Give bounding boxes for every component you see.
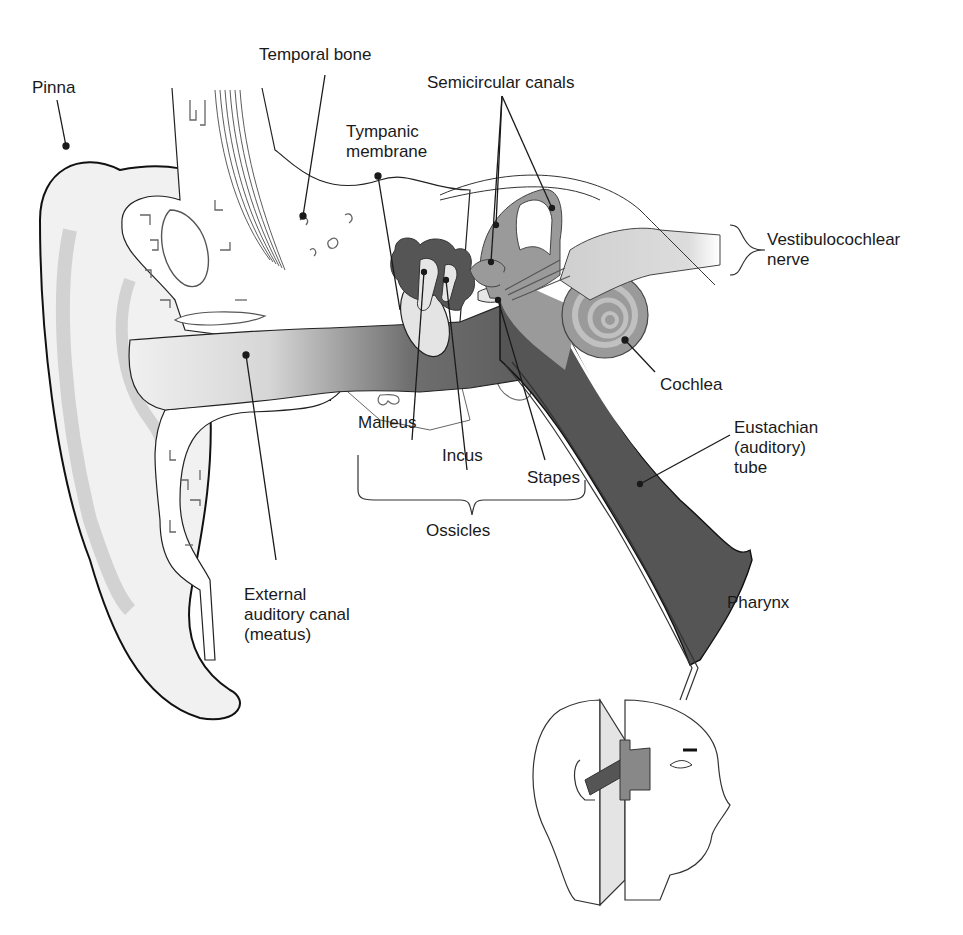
label-stapes: Stapes <box>527 468 580 488</box>
ear-anatomy-diagram: Pinna Temporal bone Semicircular canals … <box>0 0 963 935</box>
label-external-auditory-canal: External auditory canal (meatus) <box>244 585 350 645</box>
label-malleus: Malleus <box>358 413 417 433</box>
label-pharynx: Pharynx <box>727 593 789 613</box>
label-cochlea: Cochlea <box>660 375 722 395</box>
label-temporal-bone: Temporal bone <box>259 45 371 65</box>
label-ossicles: Ossicles <box>426 521 490 541</box>
head-inset <box>533 700 730 905</box>
label-semicircular-canals: Semicircular canals <box>427 73 574 93</box>
label-tympanic-membrane: Tympanic membrane <box>346 122 427 162</box>
label-vestibulocochlear-nerve: Vestibulocochlear nerve <box>767 230 900 270</box>
label-incus: Incus <box>442 446 483 466</box>
diagram-artwork <box>0 0 963 935</box>
label-eustachian-tube: Eustachian (auditory) tube <box>734 418 818 478</box>
label-pinna: Pinna <box>32 78 75 98</box>
